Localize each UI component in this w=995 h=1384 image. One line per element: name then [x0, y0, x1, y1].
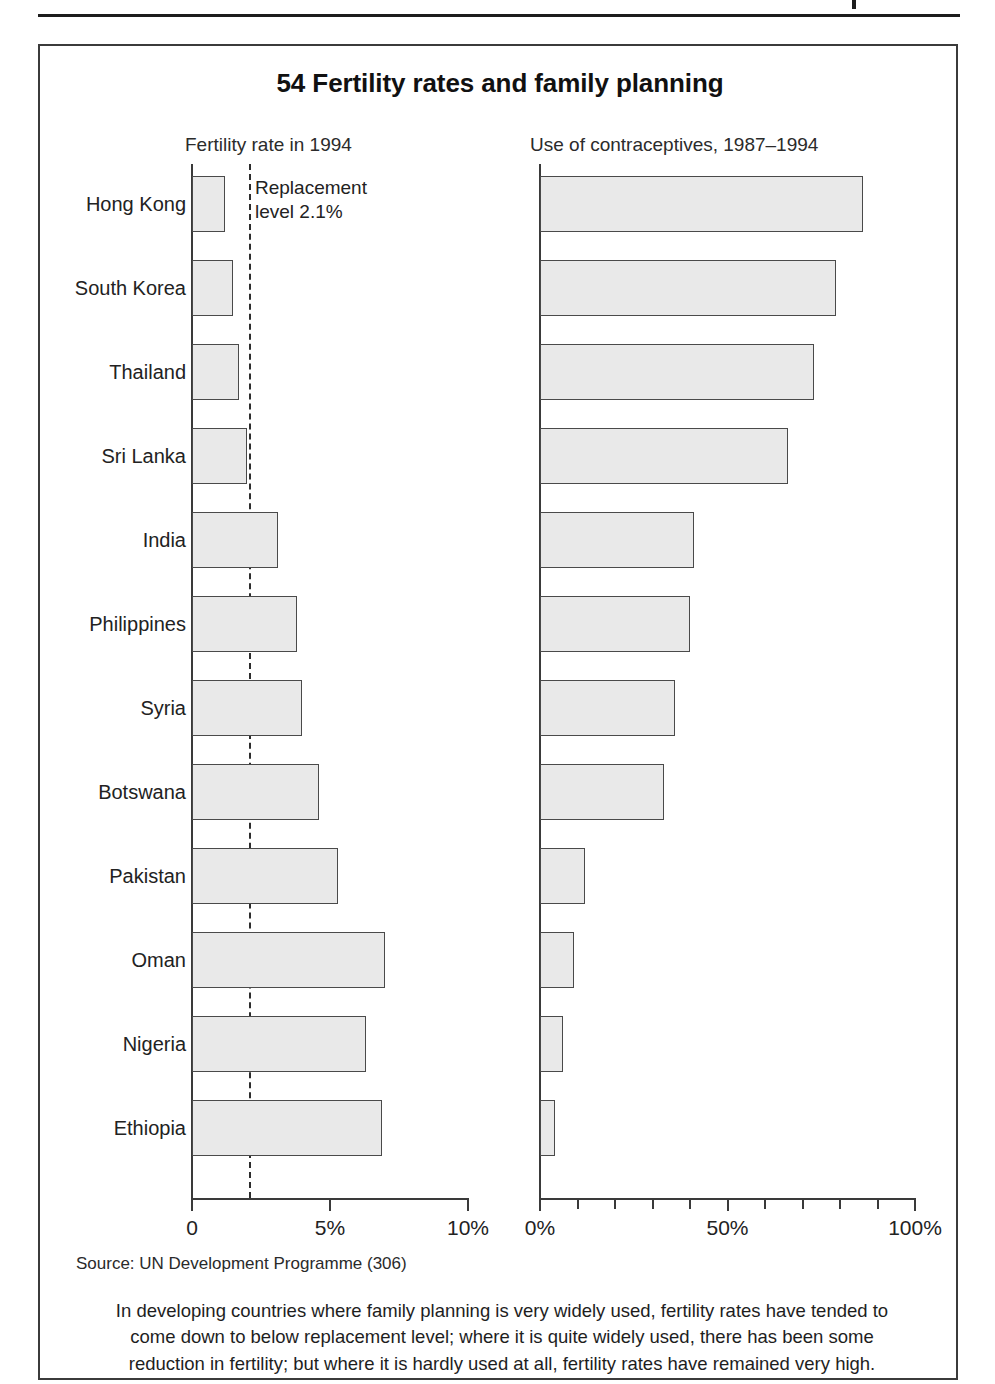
chart-0-tick	[191, 1200, 193, 1211]
category-label: Thailand	[38, 361, 186, 384]
chart-0-tick-label: 0	[186, 1216, 198, 1240]
caption-line-1: In developing countries where family pla…	[66, 1298, 938, 1324]
category-label: Botswana	[38, 781, 186, 804]
bar	[192, 1016, 366, 1072]
category-label: India	[38, 529, 186, 552]
bar	[192, 176, 225, 232]
category-label: Oman	[38, 949, 186, 972]
chart-1-tick-label: 50%	[706, 1216, 748, 1240]
page-top-rule	[38, 14, 960, 17]
bar	[192, 344, 239, 400]
bar	[540, 344, 814, 400]
page-header-descender-mark	[852, 0, 856, 9]
category-label: Syria	[38, 697, 186, 720]
category-label: Ethiopia	[38, 1117, 186, 1140]
bar	[540, 1016, 563, 1072]
caption-line-2: come down to below replacement level; wh…	[66, 1324, 938, 1350]
bar	[192, 1100, 382, 1156]
bar	[192, 848, 338, 904]
bar	[540, 764, 664, 820]
chart-1-minor-tick	[839, 1200, 841, 1209]
chart-1-minor-tick	[802, 1200, 804, 1209]
caption-line-3: reduction in fertility; but where it is …	[66, 1351, 938, 1377]
chart-0-tick-label: 10%	[447, 1216, 489, 1240]
replacement-annotation-line1: Replacement	[255, 177, 367, 198]
bar	[540, 260, 836, 316]
bar	[192, 932, 385, 988]
bar	[192, 428, 247, 484]
bar	[540, 932, 574, 988]
chart-1-minor-tick	[614, 1200, 616, 1209]
chart-1-minor-tick	[689, 1200, 691, 1209]
bar	[540, 596, 690, 652]
bar	[540, 176, 863, 232]
chart-0-tick-label: 5%	[315, 1216, 345, 1240]
chart-1-tick-label: 0%	[525, 1216, 555, 1240]
charts-plot-area: 05%10%Hong KongSouth KoreaThailandSri La…	[40, 46, 960, 1382]
figure-caption: In developing countries where family pla…	[66, 1298, 938, 1377]
chart-0-tick	[467, 1200, 469, 1211]
replacement-annotation-line2: level 2.1%	[255, 201, 343, 222]
category-label: South Korea	[38, 277, 186, 300]
source-note: Source: UN Development Programme (306)	[76, 1254, 407, 1274]
bar	[192, 764, 319, 820]
category-label: Nigeria	[38, 1033, 186, 1056]
bar	[540, 512, 694, 568]
chart-1-tick	[727, 1200, 729, 1211]
bar	[540, 680, 675, 736]
category-label: Sri Lanka	[38, 445, 186, 468]
bar	[192, 512, 278, 568]
bar	[540, 428, 788, 484]
chart-1-minor-tick	[764, 1200, 766, 1209]
bar	[192, 680, 302, 736]
chart-1-minor-tick	[652, 1200, 654, 1209]
bar	[540, 848, 585, 904]
category-label: Pakistan	[38, 865, 186, 888]
replacement-level-annotation: Replacement level 2.1%	[255, 176, 367, 225]
bar	[192, 596, 297, 652]
chart-0-tick	[329, 1200, 331, 1211]
chart-1-minor-tick	[877, 1200, 879, 1209]
figure-frame: 54 Fertility rates and family planning F…	[38, 44, 958, 1380]
bar	[192, 260, 233, 316]
chart-1-tick	[914, 1200, 916, 1211]
bar	[540, 1100, 555, 1156]
chart-1-tick	[539, 1200, 541, 1211]
category-label: Philippines	[38, 613, 186, 636]
chart-1-tick-label: 100%	[888, 1216, 942, 1240]
category-label: Hong Kong	[38, 193, 186, 216]
chart-1-minor-tick	[577, 1200, 579, 1209]
